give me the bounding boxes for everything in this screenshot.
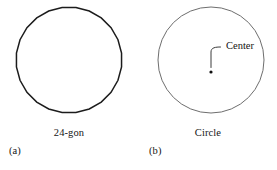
center-leader-line	[211, 47, 221, 68]
panel-b-shape-label: Circle	[139, 128, 277, 139]
panel-b-letter-label: (b)	[149, 146, 162, 157]
figure-root: 24-gon (a) Center Circle (b)	[0, 0, 277, 170]
polygon-24gon-shape	[16, 7, 121, 112]
figure-panel-b: Center Circle (b)	[139, 0, 277, 170]
panel-a-letter-label: (a)	[9, 146, 21, 157]
center-point-dot	[209, 70, 212, 73]
circle-drawing	[139, 0, 277, 126]
center-annotation-label: Center	[226, 41, 254, 52]
polygon-24gon-drawing	[0, 0, 138, 126]
panel-a-shape-label: 24-gon	[0, 128, 138, 139]
figure-panel-a: 24-gon (a)	[0, 0, 138, 170]
